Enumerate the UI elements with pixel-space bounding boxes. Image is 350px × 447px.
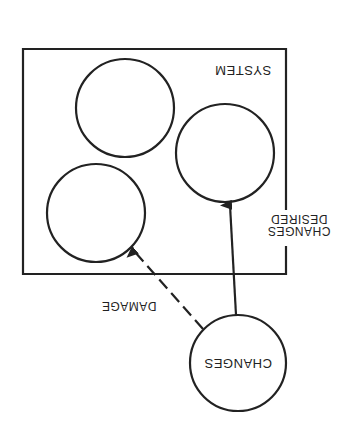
component-top-circle	[76, 59, 174, 157]
damage-label: DAMAGE	[96, 300, 162, 312]
system-label: SYSTEM	[212, 64, 274, 76]
desired-changes-label-line2: CHANGES	[262, 225, 336, 237]
desired-changes-label: CHANGES DESIRED	[262, 213, 336, 237]
damage-arrow	[134, 251, 203, 329]
desired-changes-label-line1: DESIRED	[262, 213, 336, 225]
system-box	[23, 49, 286, 274]
changes-node-label: CHANGES	[200, 357, 276, 369]
desired-changes-arrow	[230, 205, 236, 315]
component-bottom-left-circle	[47, 164, 145, 262]
component-right-circle	[176, 104, 274, 202]
